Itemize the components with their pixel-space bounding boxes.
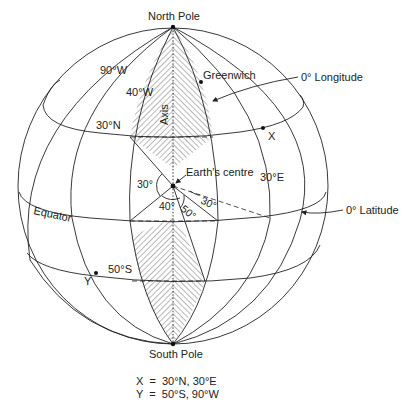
south-pole-label: South Pole (149, 348, 203, 360)
lon-90w-label: 90°W (100, 64, 128, 76)
south-pole-dot (171, 342, 175, 346)
greenwich-label: Greenwich (203, 69, 256, 81)
axis-label: Axis (158, 104, 170, 125)
centre-pointer (176, 175, 186, 183)
angle-30-left-label: 30° (137, 178, 153, 190)
earths-centre-label: Earth's centre (186, 166, 254, 178)
lon-30e-label: 30°E (260, 171, 284, 183)
lat-30n-label: 30°N (96, 119, 121, 131)
legend-point-y: Y = 50°S, 90°W (136, 388, 219, 401)
north-pole-label: North Pole (148, 10, 200, 22)
latitude-30n-back (43, 80, 60, 105)
point-y-dot (94, 271, 98, 275)
north-pole-dot (171, 25, 175, 29)
angle-arc-30-left (157, 174, 162, 196)
earth-centre-dot (171, 184, 176, 189)
zero-longitude-label: 0° Longitude (301, 71, 363, 83)
angle-40-label: 40° (159, 200, 175, 212)
point-y-label: Y (84, 275, 92, 287)
zero-latitude-label: 0° Latitude (346, 204, 399, 216)
point-x-dot (261, 126, 265, 130)
lat-50s-label: 50°S (108, 263, 132, 275)
lon-40w-label: 40°W (126, 86, 154, 98)
coordinates-legend: X = 30°N, 30°E Y = 50°S, 90°W (136, 375, 219, 401)
legend-point-x: X = 30°N, 30°E (136, 375, 219, 388)
point-x-label: X (268, 130, 276, 142)
equator-label: Equator (33, 204, 74, 224)
globe-diagram: North Pole South Pole Greenwich 0° Longi… (0, 0, 417, 413)
zero-latitude-pointer (302, 210, 343, 213)
